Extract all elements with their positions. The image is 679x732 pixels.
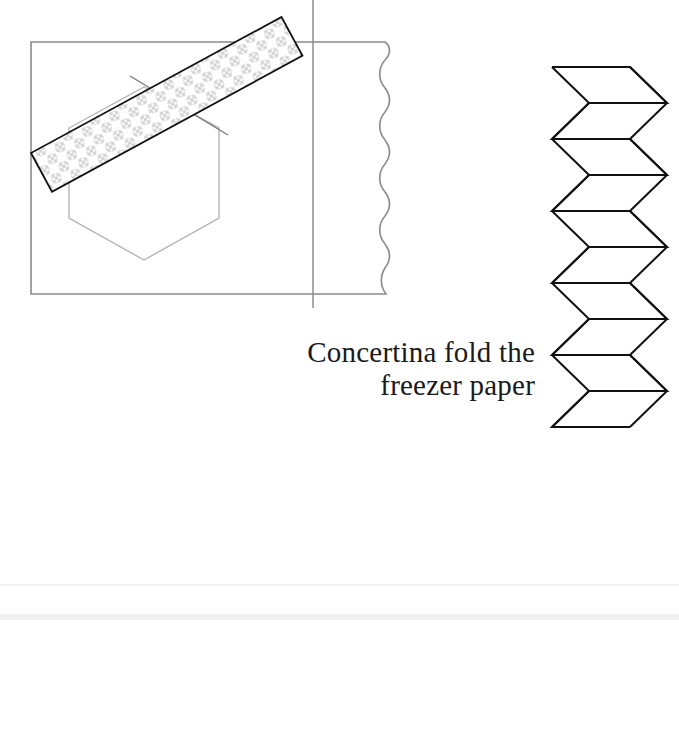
caption-line-1: Concertina fold the bbox=[307, 336, 535, 369]
background-guides bbox=[0, 585, 679, 617]
caption-line-2: freezer paper bbox=[307, 369, 535, 402]
paper-with-tape-figure bbox=[31, 0, 390, 308]
concertina-fold-figure bbox=[552, 67, 667, 427]
tape-strip bbox=[31, 17, 302, 192]
instruction-caption: Concertina fold the freezer paper bbox=[307, 336, 535, 402]
